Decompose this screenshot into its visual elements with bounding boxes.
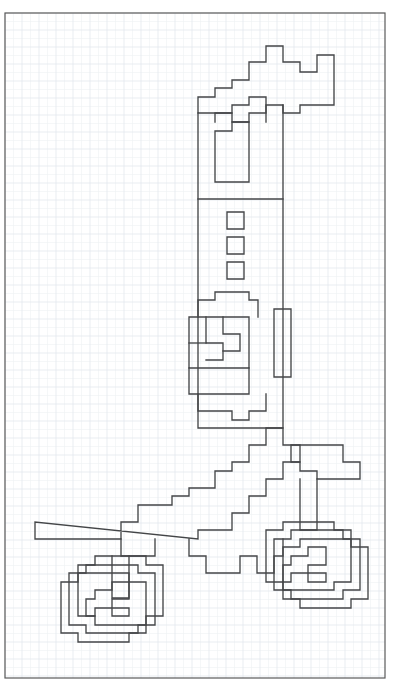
line-drawing-svg [0, 0, 397, 695]
drawing-canvas [0, 0, 397, 695]
